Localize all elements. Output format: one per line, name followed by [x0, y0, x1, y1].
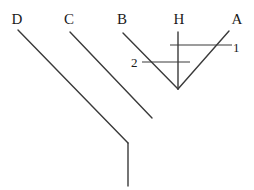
branch-D — [18, 30, 128, 143]
taxon-label-b: B — [117, 12, 127, 27]
taxon-label-a: A — [232, 12, 243, 27]
character-bar-layer — [142, 45, 232, 62]
taxon-label-d: D — [12, 12, 23, 27]
taxon-label-h: H — [174, 12, 185, 27]
branch-C — [70, 32, 152, 118]
character-label-1: 1 — [233, 41, 240, 54]
cladogram-figure: DCBHA12 — [0, 0, 254, 190]
character-label-2: 2 — [131, 56, 138, 69]
branch-layer — [18, 30, 229, 186]
branch-A — [178, 31, 229, 89]
taxon-label-c: C — [64, 12, 74, 27]
cladogram-canvas — [0, 0, 254, 190]
